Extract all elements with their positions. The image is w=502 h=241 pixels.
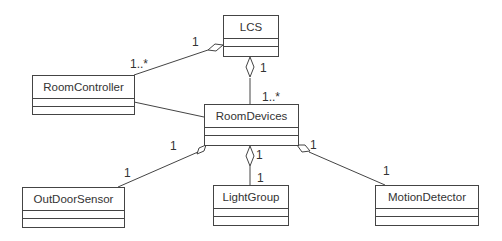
multiplicity-label: 1 bbox=[383, 165, 390, 177]
class-motiondetector[interactable]: MotionDetector bbox=[375, 185, 479, 226]
aggregation-diamond-icon bbox=[208, 44, 223, 51]
class-name: LightGroup bbox=[214, 186, 288, 209]
aggregation-diamond-icon bbox=[197, 145, 206, 154]
class-lightgroup[interactable]: LightGroup bbox=[213, 185, 289, 226]
class-name: RoomController bbox=[33, 76, 134, 99]
class-operations bbox=[214, 217, 288, 226]
class-operations bbox=[376, 217, 478, 226]
class-operations bbox=[33, 107, 134, 116]
class-outdoorsensor[interactable]: OutDoorSensor bbox=[22, 187, 125, 228]
edge-roomdevices-motiondetector bbox=[309, 152, 385, 185]
class-name: MotionDetector bbox=[376, 186, 478, 209]
aggregation-diamond-icon bbox=[297, 145, 310, 152]
multiplicity-label: 1..* bbox=[262, 91, 280, 103]
multiplicity-label: 1 bbox=[124, 167, 131, 179]
class-operations bbox=[23, 219, 124, 228]
class-attributes bbox=[376, 209, 478, 217]
aggregation-diamond-icon bbox=[246, 146, 254, 166]
class-attributes bbox=[23, 211, 124, 219]
class-name: LCS bbox=[224, 16, 278, 39]
class-lcs[interactable]: LCS bbox=[223, 15, 279, 57]
class-attributes bbox=[33, 99, 134, 107]
multiplicity-label: 1 bbox=[260, 62, 267, 74]
class-attributes bbox=[214, 209, 288, 217]
class-operations bbox=[205, 136, 298, 145]
class-roomdevices[interactable]: RoomDevices bbox=[204, 104, 299, 146]
class-attributes bbox=[224, 39, 278, 47]
multiplicity-label: 1 bbox=[192, 36, 199, 48]
multiplicity-label: 1..* bbox=[130, 58, 148, 70]
class-roomcontroller[interactable]: RoomController bbox=[32, 75, 135, 115]
class-name: RoomDevices bbox=[205, 105, 298, 128]
multiplicity-label: 1 bbox=[170, 140, 177, 152]
aggregation-diamond-icon bbox=[246, 57, 254, 77]
multiplicity-label: 1 bbox=[310, 139, 317, 151]
edge-roomcontroller-roomdevices bbox=[134, 102, 204, 117]
class-attributes bbox=[205, 128, 298, 136]
multiplicity-label: 1 bbox=[256, 149, 263, 161]
multiplicity-label: 1 bbox=[257, 172, 264, 184]
class-name: OutDoorSensor bbox=[23, 188, 124, 211]
class-operations bbox=[224, 47, 278, 56]
